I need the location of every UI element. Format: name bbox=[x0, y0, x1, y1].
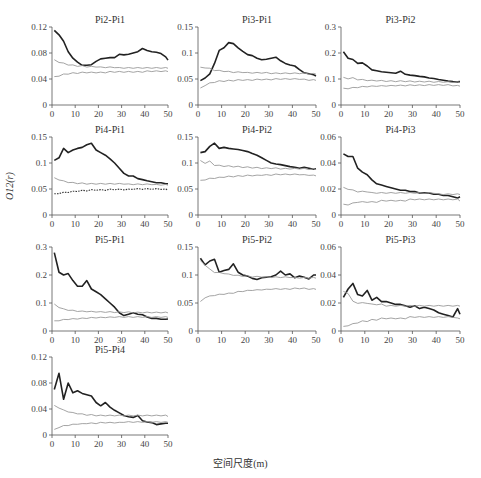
panel-pi5-pi1: Pi5-Pi100.10.20.301020304050 bbox=[36, 234, 173, 345]
axis-lines bbox=[52, 27, 168, 105]
y-tick-label: 0.15 bbox=[31, 132, 47, 142]
panel-pi5-pi4: Pi5-Pi400.040.080.1201020304050 bbox=[31, 344, 173, 449]
axis-lines bbox=[341, 27, 460, 105]
y-tick-label: 0.1 bbox=[182, 158, 193, 168]
panel-pi3-pi2: Pi3-Pi200.10.20.301020304050 bbox=[325, 14, 465, 119]
x-tick-label: 40 bbox=[288, 335, 298, 345]
y-tick-label: 0.04 bbox=[31, 404, 47, 414]
x-tick-label: 0 bbox=[339, 219, 344, 229]
x-tick-label: 10 bbox=[217, 335, 227, 345]
x-tick-label: 30 bbox=[117, 439, 127, 449]
y-tick-label: 0.05 bbox=[177, 298, 193, 308]
y-tick-label: 0 bbox=[43, 100, 48, 110]
panel-pi4-pi1: Pi4-Pi100.050.10.1501020304050 bbox=[31, 124, 173, 229]
x-tick-label: 20 bbox=[241, 109, 251, 119]
y-tick-label: 0.06 bbox=[320, 242, 336, 252]
series-lower-envelope-line bbox=[200, 174, 316, 180]
y-tick-label: 0 bbox=[189, 210, 194, 220]
panel-title: Pi3-Pi1 bbox=[242, 14, 272, 25]
x-tick-label: 20 bbox=[94, 219, 104, 229]
x-tick-label: 10 bbox=[71, 219, 81, 229]
y-tick-label: 0.12 bbox=[31, 352, 47, 362]
y-tick-label: 0.1 bbox=[36, 298, 47, 308]
x-tick-label: 10 bbox=[71, 109, 81, 119]
series-upper-envelope-line bbox=[54, 60, 168, 69]
y-tick-label: 0.15 bbox=[177, 242, 193, 252]
x-tick-label: 10 bbox=[71, 439, 81, 449]
x-tick-label: 50 bbox=[312, 219, 322, 229]
x-tick-label: 10 bbox=[71, 335, 81, 345]
panel-pi5-pi2: Pi5-Pi200.050.10.1501020304050 bbox=[177, 234, 321, 345]
y-tick-label: 0.04 bbox=[320, 158, 336, 168]
series-observed-line bbox=[343, 52, 460, 82]
x-tick-label: 10 bbox=[360, 109, 370, 119]
y-tick-label: 0.05 bbox=[31, 184, 47, 194]
y-tick-label: 0.08 bbox=[31, 378, 47, 388]
y-tick-label: 0.1 bbox=[182, 270, 193, 280]
series-observed-line bbox=[54, 30, 168, 65]
y-axis-label: O12(r) bbox=[4, 172, 15, 200]
x-tick-label: 30 bbox=[264, 219, 274, 229]
x-tick-label: 50 bbox=[312, 109, 322, 119]
y-tick-label: 0.2 bbox=[36, 270, 47, 280]
x-tick-label: 30 bbox=[117, 109, 127, 119]
x-tick-label: 20 bbox=[384, 109, 394, 119]
y-tick-label: 0 bbox=[189, 100, 194, 110]
x-tick-label: 50 bbox=[456, 219, 466, 229]
x-tick-label: 40 bbox=[140, 219, 150, 229]
chart-grid: Pi2-Pi100.040.080.1201020304050Pi3-Pi100… bbox=[0, 0, 481, 478]
x-tick-label: 0 bbox=[339, 109, 344, 119]
y-tick-label: 0 bbox=[189, 326, 194, 336]
y-tick-label: 0.12 bbox=[31, 22, 47, 32]
y-tick-label: 0.02 bbox=[320, 298, 336, 308]
x-tick-label: 0 bbox=[50, 335, 55, 345]
series-observed-line bbox=[54, 253, 168, 320]
series-lower-envelope-line bbox=[54, 71, 168, 77]
x-tick-label: 50 bbox=[164, 335, 174, 345]
panel-pi5-pi3: Pi5-Pi300.020.040.0601020304050 bbox=[320, 234, 465, 345]
panel-title: Pi4-Pi1 bbox=[95, 124, 125, 135]
y-tick-label: 0 bbox=[332, 100, 337, 110]
x-tick-label: 10 bbox=[217, 109, 227, 119]
y-axis-label-text: O12(r) bbox=[4, 172, 15, 200]
panel-title: Pi4-Pi3 bbox=[385, 124, 415, 135]
x-tick-label: 10 bbox=[360, 219, 370, 229]
x-tick-label: 10 bbox=[217, 219, 227, 229]
axis-lines bbox=[198, 27, 316, 105]
x-tick-label: 0 bbox=[50, 109, 55, 119]
x-tick-label: 50 bbox=[164, 439, 174, 449]
x-tick-label: 20 bbox=[384, 219, 394, 229]
y-tick-label: 0.15 bbox=[177, 132, 193, 142]
x-tick-label: 20 bbox=[384, 335, 394, 345]
panel-pi4-pi3: Pi4-Pi300.020.040.0601020304050 bbox=[320, 124, 465, 229]
x-tick-label: 40 bbox=[432, 109, 442, 119]
y-tick-label: 0 bbox=[332, 326, 337, 336]
series-lower-envelope-line bbox=[343, 199, 460, 205]
x-tick-label: 0 bbox=[50, 439, 55, 449]
y-tick-label: 0.08 bbox=[31, 48, 47, 58]
series-lower-envelope-line bbox=[200, 288, 316, 302]
series-lower-envelope-line bbox=[343, 317, 460, 327]
y-tick-label: 0.05 bbox=[177, 184, 193, 194]
y-tick-label: 0 bbox=[332, 210, 337, 220]
series-lower-envelope-line bbox=[200, 79, 316, 88]
series-lower-envelope-line bbox=[343, 85, 460, 89]
axis-lines bbox=[341, 137, 460, 215]
x-tick-label: 50 bbox=[164, 219, 174, 229]
panel-title: Pi5-Pi4 bbox=[95, 344, 125, 355]
y-tick-label: 0.15 bbox=[177, 22, 193, 32]
series-observed-line bbox=[200, 43, 316, 81]
panel-title: Pi3-Pi2 bbox=[385, 14, 415, 25]
y-tick-label: 0.1 bbox=[182, 48, 193, 58]
x-tick-label: 50 bbox=[164, 109, 174, 119]
x-tick-label: 40 bbox=[432, 219, 442, 229]
x-tick-label: 30 bbox=[264, 335, 274, 345]
x-tick-label: 50 bbox=[456, 109, 466, 119]
x-tick-label: 30 bbox=[117, 219, 127, 229]
panel-title: Pi5-Pi3 bbox=[385, 234, 415, 245]
x-tick-label: 20 bbox=[94, 439, 104, 449]
x-tick-label: 0 bbox=[339, 335, 344, 345]
series-upper-envelope-line bbox=[54, 304, 168, 313]
x-tick-label: 0 bbox=[196, 335, 201, 345]
x-tick-label: 20 bbox=[241, 335, 251, 345]
